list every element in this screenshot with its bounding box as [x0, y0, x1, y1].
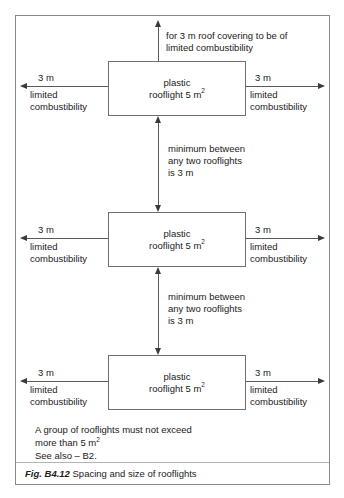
- rooflight-box-1-line-2: rooflight 5 m2: [109, 89, 245, 102]
- box3-left-desc-line-2: combustibility: [30, 396, 87, 407]
- gap1-note: minimum between any two rooflights is 3 …: [168, 143, 245, 180]
- box1-left-desc-line-1: limited: [30, 89, 57, 100]
- rooflight-box-3-line-1: plastic: [109, 370, 245, 383]
- figure-caption: Fig. B4.12 Spacing and size of rooflight…: [25, 467, 197, 480]
- gap2-arrow-head-down: [155, 348, 161, 355]
- group-note-line-2: more than 5 m2: [35, 437, 100, 448]
- box3-right-arrow-shaft: [246, 381, 319, 382]
- box1-left-arrow-shaft: [26, 86, 108, 87]
- rooflight-box-3: plastic rooflight 5 m2: [108, 355, 246, 410]
- top-note-line-1: for 3 m roof covering to be of: [166, 30, 287, 41]
- box2-left-desc-line-1: limited: [30, 241, 57, 252]
- figure-spacing-and-size-of-rooflights: for 3 m roof covering to be of limited c…: [0, 0, 344, 498]
- group-note: A group of rooflights must not exceed mo…: [35, 423, 192, 449]
- caption-divider: [16, 462, 329, 463]
- gap2-note-line-3: is 3 m: [168, 315, 193, 326]
- box3-right-distance: 3 m: [255, 367, 271, 379]
- box3-left-desc-line-1: limited: [30, 384, 57, 395]
- rooflight-box-1: plastic rooflight 5 m2: [108, 61, 246, 116]
- box3-left-arrow-head: [20, 378, 27, 384]
- box2-right-desc-line-2: combustibility: [250, 253, 307, 264]
- box3-right-desc-line-1: limited: [250, 384, 277, 395]
- box2-right-desc-line-1: limited: [250, 241, 277, 252]
- box3-left-distance: 3 m: [38, 367, 54, 379]
- rooflight-box-1-text: plastic rooflight 5 m2: [109, 76, 245, 101]
- box2-left-arrow-head: [20, 235, 27, 241]
- gap1-note-line-2: any two rooflights: [168, 155, 242, 166]
- top-note: for 3 m roof covering to be of limited c…: [166, 30, 287, 54]
- box1-left-arrow-head: [20, 83, 27, 89]
- box1-right-desc-line-2: combustibility: [250, 101, 307, 112]
- box3-left-description: limited combustibility: [30, 384, 87, 408]
- box2-right-arrow-head: [318, 235, 325, 241]
- see-also-note: See also – B2.: [35, 449, 97, 462]
- box1-right-arrow-shaft: [246, 86, 319, 87]
- rooflight-box-2: plastic rooflight 5 m2: [108, 212, 246, 267]
- box2-left-description: limited combustibility: [30, 241, 87, 265]
- box1-right-desc-line-1: limited: [250, 89, 277, 100]
- box2-right-distance: 3 m: [255, 224, 271, 236]
- top-note-line-2: limited combustibility: [166, 42, 253, 53]
- gap2-arrow-head-up: [155, 267, 161, 274]
- box3-right-desc-line-2: combustibility: [250, 396, 307, 407]
- gap2-note-line-2: any two rooflights: [168, 303, 242, 314]
- box3-right-description: limited combustibility: [250, 384, 307, 408]
- gap2-note: minimum between any two rooflights is 3 …: [168, 291, 245, 328]
- box1-right-arrow-head: [318, 83, 325, 89]
- gap2-note-line-1: minimum between: [168, 291, 245, 302]
- group-note-line-1: A group of rooflights must not exceed: [35, 424, 192, 435]
- top-arrow-head-up: [155, 20, 161, 27]
- box2-right-arrow-shaft: [246, 238, 319, 239]
- rooflight-box-2-text: plastic rooflight 5 m2: [109, 227, 245, 252]
- gap1-arrow-head-up: [155, 116, 161, 123]
- rooflight-box-3-line-2: rooflight 5 m2: [109, 383, 245, 396]
- box1-right-description: limited combustibility: [250, 89, 307, 113]
- figure-caption-number: Fig. B4.12: [25, 468, 70, 479]
- rooflight-box-3-text: plastic rooflight 5 m2: [109, 370, 245, 395]
- box3-right-arrow-head: [318, 378, 325, 384]
- rooflight-box-1-line-1: plastic: [109, 76, 245, 89]
- box2-left-distance: 3 m: [38, 224, 54, 236]
- top-arrow-shaft: [158, 25, 159, 61]
- figure-caption-title: Spacing and size of rooflights: [73, 468, 197, 479]
- box1-left-desc-line-2: combustibility: [30, 101, 87, 112]
- box2-left-arrow-shaft: [26, 238, 108, 239]
- gap1-note-line-3: is 3 m: [168, 167, 193, 178]
- box1-right-distance: 3 m: [255, 72, 271, 84]
- box3-left-arrow-shaft: [26, 381, 108, 382]
- gap1-note-line-1: minimum between: [168, 143, 245, 154]
- rooflight-box-2-line-1: plastic: [109, 227, 245, 240]
- box2-left-desc-line-2: combustibility: [30, 253, 87, 264]
- gap1-arrow-head-down: [155, 205, 161, 212]
- box1-left-description: limited combustibility: [30, 89, 87, 113]
- box2-right-description: limited combustibility: [250, 241, 307, 265]
- gap2-arrow-shaft: [158, 272, 159, 350]
- gap1-arrow-shaft: [158, 121, 159, 207]
- box1-left-distance: 3 m: [38, 72, 54, 84]
- rooflight-box-2-line-2: rooflight 5 m2: [109, 240, 245, 253]
